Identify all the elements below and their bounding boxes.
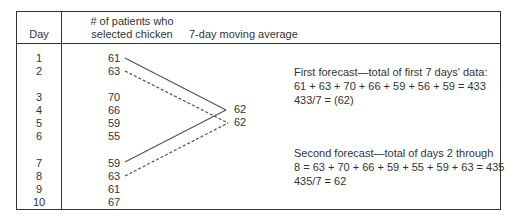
second-forecast-line2: 8 = 63 + 70 + 66 + 59 + 55 + 59 + 63 = 4…	[294, 161, 504, 174]
first-forecast-line3: 433/7 = (62)	[294, 94, 354, 107]
second-forecast-line3: 435/7 = 62	[294, 175, 346, 188]
first-forecast-line2: 61 + 63 + 70 + 66 + 59 + 56 + 59 = 433	[294, 80, 486, 93]
first-forecast-line1: First forecast—total of first 7 days' da…	[294, 66, 487, 79]
window-connector-lines	[0, 0, 516, 220]
second-forecast-line1: Second forecast—total of days 2 through	[294, 147, 493, 160]
